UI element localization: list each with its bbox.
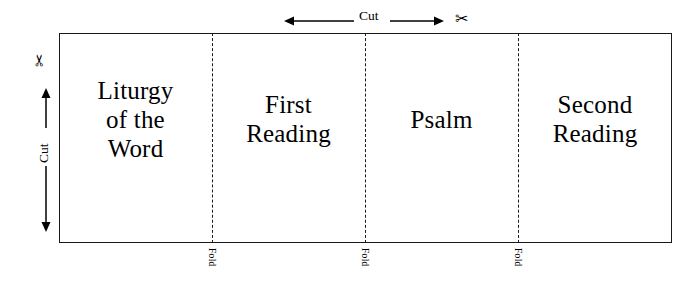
panel-label: Second Reading xyxy=(553,90,638,148)
panel-label: Psalm xyxy=(410,105,472,134)
panel-liturgy-of-the-word: Liturgy of the Word xyxy=(59,33,212,243)
scissors-icon: ✂ xyxy=(32,54,48,67)
panel-second-reading: Second Reading xyxy=(518,33,672,243)
diagram-canvas: Liturgy of the Word First Reading Psalm … xyxy=(0,0,700,291)
panel-psalm: Psalm xyxy=(365,33,518,243)
panel-label: Liturgy of the Word xyxy=(98,76,174,163)
left-cut-label: Cut xyxy=(36,140,52,166)
fold-label-2: Fold xyxy=(360,248,370,267)
top-cut-arrow-icon xyxy=(282,8,482,34)
left-cut-marker: Cut xyxy=(28,46,64,238)
top-cut-label: Cut xyxy=(356,8,382,24)
scissors-icon: ✂ xyxy=(455,11,468,27)
top-cut-marker: Cut xyxy=(282,8,482,34)
fold-label-3: Fold xyxy=(513,248,523,267)
fold-label-1: Fold xyxy=(207,248,217,267)
panel-label: First Reading xyxy=(246,90,331,148)
panel-first-reading: First Reading xyxy=(212,33,365,243)
